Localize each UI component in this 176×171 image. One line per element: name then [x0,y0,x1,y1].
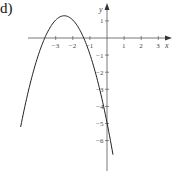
x-tick-label: 1 [122,42,126,50]
y-tick-label: −5 [96,120,104,128]
y-tick-label: 1 [100,17,104,25]
x-tick-label: −2 [69,42,77,50]
y-tick-label: −2 [96,69,104,77]
x-tick-label: 3 [156,42,160,50]
y-axis-label: y [98,5,103,14]
parabola-curve [21,16,113,155]
axis-ticks: −3−2−11231−1−2−3−4−5−6 [52,17,161,145]
x-axis-arrow-icon [165,36,172,41]
parabola-chart: xy −3−2−11231−1−2−3−4−5−6 [0,0,176,171]
x-tick-label: 2 [139,42,143,50]
y-tick-label: −6 [96,137,104,145]
y-axis-arrow-icon [105,3,110,10]
x-axis-label: x [164,41,169,50]
x-tick-label: −3 [52,42,60,50]
curves [21,16,113,155]
y-tick-label: −1 [96,52,104,60]
